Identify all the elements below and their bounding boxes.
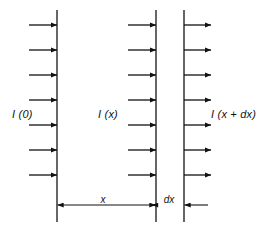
rays-at-x-plus-dx [184, 25, 211, 175]
label-intensity-at-x-plus-dx: I (x + dx) [211, 108, 256, 120]
label-intensity-at-x: I (x) [98, 108, 118, 120]
dimension-label-dx: dx [164, 194, 176, 205]
attenuation-diagram: I (0) I (x) I (x + dx) x dx [0, 0, 275, 238]
label-incident-intensity: I (0) [12, 108, 33, 120]
dimension-label-x: x [100, 194, 107, 205]
rays-at-x [128, 25, 156, 175]
incident-rays [29, 25, 57, 175]
boundary-lines [57, 10, 184, 222]
diagram-canvas: I (0) I (x) I (x + dx) x dx [0, 0, 275, 238]
